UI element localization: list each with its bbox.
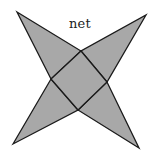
net-label: net bbox=[69, 16, 91, 31]
